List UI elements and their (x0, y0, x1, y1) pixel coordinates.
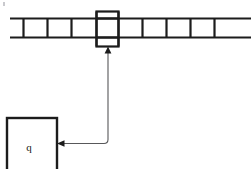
tape-cell[interactable] (190, 18, 214, 38)
diagram-canvas: q (0, 0, 251, 169)
turing-machine-figure: q (0, 0, 251, 169)
tape-cell[interactable] (71, 18, 96, 38)
tape-cell[interactable] (10, 18, 23, 38)
tape (10, 18, 251, 38)
tape-cell[interactable] (238, 18, 251, 38)
tape-cell[interactable] (118, 18, 142, 38)
state-label: q (26, 141, 32, 153)
scan-speck (3, 2, 5, 6)
tape-cell[interactable] (47, 18, 71, 38)
tape-cell[interactable] (142, 18, 166, 38)
tape-cell[interactable] (214, 18, 238, 38)
tape-cell[interactable] (166, 18, 190, 38)
tape-cell-under-head[interactable] (96, 18, 118, 38)
tape-cell[interactable] (23, 18, 47, 38)
tape-cells (10, 18, 251, 38)
